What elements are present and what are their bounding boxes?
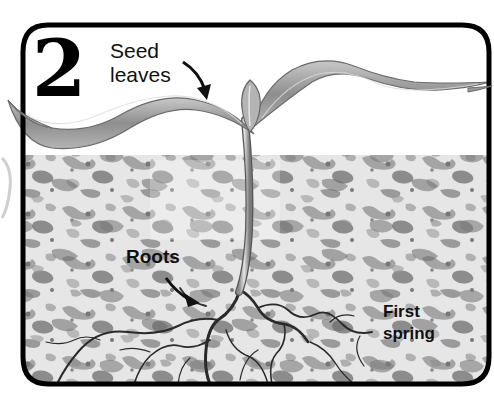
label-roots: Roots <box>126 247 180 266</box>
step-number: 2 <box>32 30 86 108</box>
seedling-diagram: 2 Seed leaves Roots First spring <box>0 0 494 394</box>
soil <box>23 155 489 384</box>
label-leaves: leaves <box>110 64 171 85</box>
right-seed-leaf <box>252 61 490 128</box>
seed-leaves-arrow <box>183 62 211 100</box>
label-first: First <box>383 303 420 320</box>
label-seed: Seed <box>110 40 159 61</box>
label-spring: spring <box>383 325 435 342</box>
adjacent-panel-edge <box>2 158 10 218</box>
